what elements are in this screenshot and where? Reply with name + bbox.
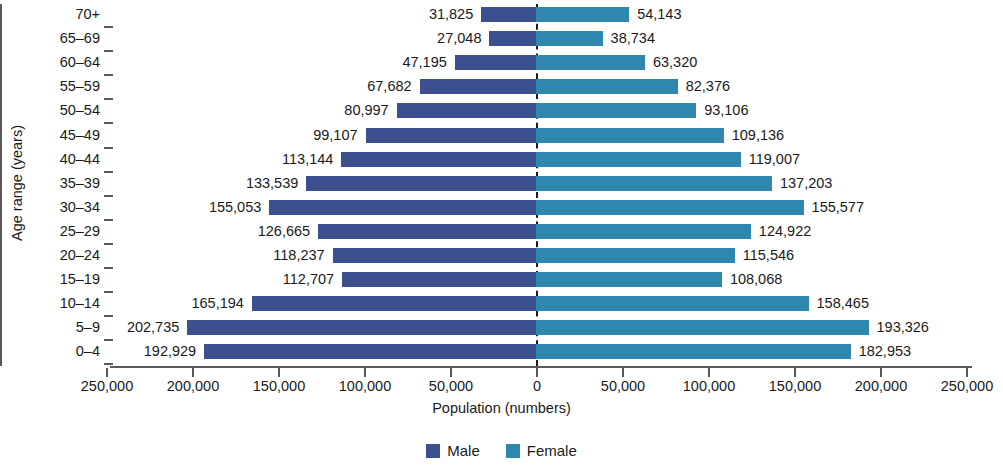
pyramid-row: 15–19112,707108,068 [0, 269, 1003, 290]
bar-value-female: 182,953 [859, 341, 911, 362]
bar-value-female: 115,546 [743, 245, 794, 266]
age-range-label: 50–54 [0, 100, 100, 121]
bar-female [536, 344, 851, 359]
pyramid-row: 60–6447,19563,320 [0, 52, 1003, 73]
bar-value-female: 155,577 [812, 197, 864, 218]
bar-male [318, 224, 536, 239]
bar-value-female: 158,465 [817, 293, 869, 314]
age-range-label: 70+ [0, 4, 100, 25]
bar-female [536, 296, 809, 311]
bar-value-male: 31,825 [271, 4, 473, 25]
bar-value-male: 47,195 [245, 52, 447, 73]
bar-value-male: 133,539 [96, 173, 298, 194]
age-range-label: 20–24 [0, 245, 100, 266]
x-axis-title: Population (numbers) [0, 400, 1003, 416]
bar-value-female: 137,203 [780, 173, 832, 194]
bar-value-male: 155,053 [59, 197, 261, 218]
x-axis-tick [278, 368, 280, 377]
bar-value-female: 119,007 [749, 149, 800, 170]
pyramid-row: 30–34155,053155,577 [0, 197, 1003, 218]
age-range-label: 40–44 [0, 149, 100, 170]
bar-female [536, 320, 869, 335]
bar-value-male: 192,929 [0, 341, 196, 362]
bar-female [536, 55, 645, 70]
x-axis-tick-label: 250,000 [907, 378, 1003, 394]
bar-value-male: 165,194 [42, 293, 244, 314]
age-range-label: 45–49 [0, 125, 100, 146]
bar-value-male: 202,735 [0, 317, 179, 338]
bar-male [397, 103, 536, 118]
bar-female [536, 200, 804, 215]
legend-item-male: Male [426, 442, 480, 459]
bar-male [252, 296, 536, 311]
x-axis-tick [536, 368, 538, 377]
bar-value-male: 67,682 [210, 76, 412, 97]
age-range-label: 25–29 [0, 221, 100, 242]
bar-female [536, 248, 735, 263]
legend-label-male: Male [447, 442, 480, 459]
age-range-label: 55–59 [0, 76, 100, 97]
x-axis-tick [708, 368, 710, 377]
age-range-label: 15–19 [0, 269, 100, 290]
x-axis-tick [192, 368, 194, 377]
pyramid-row: 20–24118,237115,546 [0, 245, 1003, 266]
bar-male [481, 7, 536, 22]
bar-value-female: 82,376 [686, 76, 730, 97]
chart-legend: Male Female [0, 442, 1003, 459]
pyramid-row: 35–39133,539137,203 [0, 173, 1003, 194]
bar-value-male: 112,707 [132, 269, 334, 290]
legend-label-female: Female [527, 442, 577, 459]
pyramid-row: 50–5480,99793,106 [0, 100, 1003, 121]
bar-value-female: 54,143 [637, 4, 681, 25]
bar-value-male: 113,144 [131, 149, 333, 170]
bar-value-male: 118,237 [123, 245, 325, 266]
pyramid-row: 0–4192,929182,953 [0, 341, 1003, 362]
bar-value-female: 193,326 [877, 317, 929, 338]
x-axis-tick [622, 368, 624, 377]
bar-value-female: 124,922 [759, 221, 811, 242]
bar-value-female: 109,136 [732, 125, 784, 146]
pyramid-row: 25–29126,665124,922 [0, 221, 1003, 242]
bar-male [333, 248, 536, 263]
legend-swatch-female-icon [506, 444, 520, 458]
bar-male [187, 320, 536, 335]
bar-female [536, 7, 629, 22]
bar-male [342, 272, 536, 287]
bar-value-male: 99,107 [156, 125, 358, 146]
x-axis-tick [450, 368, 452, 377]
pyramid-row: 40–44113,144119,007 [0, 149, 1003, 170]
bar-value-female: 63,320 [653, 52, 697, 73]
bar-female [536, 128, 724, 143]
pyramid-row: 45–4999,107109,136 [0, 125, 1003, 146]
bar-female [536, 152, 741, 167]
x-axis-spine [110, 366, 972, 368]
bar-female [536, 31, 603, 46]
bar-value-male: 126,665 [108, 221, 310, 242]
bar-value-female: 38,734 [611, 28, 655, 49]
x-axis-tick [106, 368, 108, 377]
bar-value-male: 80,997 [187, 100, 389, 121]
age-range-label: 65–69 [0, 28, 100, 49]
pyramid-row: 65–6927,04838,734 [0, 28, 1003, 49]
bar-female [536, 79, 678, 94]
bar-value-male: 27,048 [279, 28, 481, 49]
bar-male [455, 55, 536, 70]
legend-item-female: Female [506, 442, 577, 459]
bar-male [341, 152, 536, 167]
bar-male [269, 200, 536, 215]
bar-female [536, 224, 751, 239]
y-axis-tick [104, 363, 113, 365]
bar-male [306, 176, 536, 191]
bar-female [536, 103, 696, 118]
bar-male [366, 128, 536, 143]
bar-value-female: 93,106 [704, 100, 748, 121]
pyramid-row: 10–14165,194158,465 [0, 293, 1003, 314]
x-axis-tick [880, 368, 882, 377]
bar-female [536, 272, 722, 287]
population-pyramid-chart: Age range (years) 70+31,82554,14365–6927… [0, 0, 1003, 472]
x-axis-tick [966, 368, 968, 377]
pyramid-row: 5–9202,735193,326 [0, 317, 1003, 338]
bar-male [420, 79, 536, 94]
bar-value-female: 108,068 [730, 269, 782, 290]
pyramid-row: 55–5967,68282,376 [0, 76, 1003, 97]
